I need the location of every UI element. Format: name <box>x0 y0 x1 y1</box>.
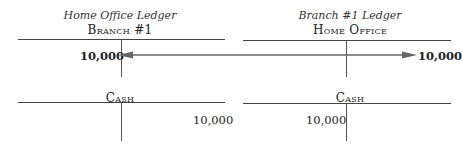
right-ledger-title: Branch #1 Ledger <box>270 9 430 22</box>
right-bottom-account-rule <box>243 103 451 104</box>
right-bottom-account-debit: 10,000 <box>306 113 346 127</box>
left-bottom-account-credit: 10,000 <box>193 113 233 127</box>
left-bottom-account-divider <box>121 103 122 141</box>
left-top-account-name: Branch #1 <box>40 23 200 37</box>
left-ledger-title: Home Office Ledger <box>40 9 200 22</box>
right-top-account-credit: 10,000 <box>418 49 462 63</box>
right-top-account-name: Home Office <box>270 23 430 37</box>
right-top-account-rule <box>243 40 451 41</box>
double-arrow-icon <box>115 48 420 62</box>
